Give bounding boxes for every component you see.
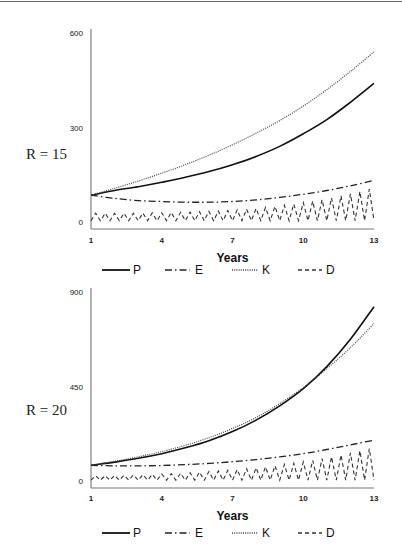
x-tick-label: 13 <box>370 236 379 245</box>
y-tick-label: 0 <box>79 218 84 227</box>
legend: PEKD <box>102 526 335 540</box>
legend-label-D: D <box>326 526 335 540</box>
legend-label-P: P <box>133 526 141 540</box>
x-axis-label: Years <box>216 509 248 523</box>
x-tick-label: 10 <box>299 494 308 503</box>
x-tick-label: 4 <box>160 494 165 503</box>
chart-canvas: 03006001471013YearsPEKD04509001471013Yea… <box>0 0 402 558</box>
legend-label-K: K <box>262 263 270 277</box>
series-line-D <box>91 449 374 481</box>
legend-label-E: E <box>195 263 203 277</box>
series-line-P <box>91 307 374 466</box>
series-line-K <box>91 324 374 466</box>
series-line-E <box>91 440 374 466</box>
y-tick-label: 900 <box>70 288 84 297</box>
x-axis-label: Years <box>216 251 248 265</box>
y-tick-label: 450 <box>70 383 84 392</box>
legend-label-K: K <box>262 526 270 540</box>
x-tick-label: 10 <box>299 236 308 245</box>
x-tick-label: 7 <box>230 494 235 503</box>
series-line-D <box>91 189 374 221</box>
chart-panel-2: 04509001471013YearsPEKD <box>70 288 379 540</box>
legend-label-P: P <box>133 263 141 277</box>
legend-label-D: D <box>326 263 335 277</box>
x-tick-label: 4 <box>160 236 165 245</box>
y-tick-label: 0 <box>79 477 84 486</box>
legend-label-E: E <box>195 526 203 540</box>
chart-panel-1: 03006001471013YearsPEKD <box>70 29 379 277</box>
y-tick-label: 300 <box>70 124 84 133</box>
series-line-P <box>91 83 374 195</box>
x-tick-label: 1 <box>89 236 94 245</box>
series-line-K <box>91 52 374 195</box>
x-tick-label: 7 <box>230 236 235 245</box>
y-tick-label: 600 <box>70 29 84 38</box>
x-tick-label: 1 <box>89 494 94 503</box>
x-tick-label: 13 <box>370 494 379 503</box>
legend: PEKD <box>102 263 335 277</box>
